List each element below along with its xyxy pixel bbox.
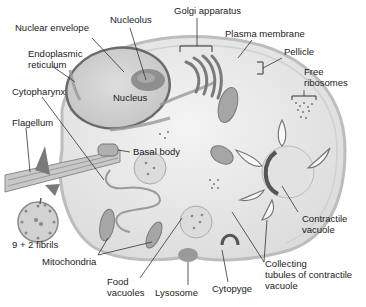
label-contractile-vacuole: Contractile vacuole <box>302 213 347 235</box>
label-plasma-membrane: Plasma membrane <box>225 28 305 39</box>
label-nucleus: Nucleus <box>113 92 147 103</box>
label-collecting-tubules: Collecting tubules of contractile vacuol… <box>265 258 352 291</box>
label-cytopyge: Cytopyge <box>212 283 252 294</box>
label-nucleolus: Nucleolus <box>110 14 152 25</box>
label-nuclear-envelope: Nuclear envelope <box>15 22 89 33</box>
label-food-vacuoles: Food vacuoles <box>107 276 145 298</box>
label-endoplasmic-reticulum: Endoplasmic reticulum <box>28 48 82 70</box>
label-basal-body: Basal body <box>133 146 180 157</box>
label-golgi-apparatus: Golgi apparatus <box>174 5 241 16</box>
paramecium-diagram: Nuclear envelope Nucleolus Golgi apparat… <box>0 0 366 307</box>
label-cytopharynx: Cytopharynx <box>12 86 65 97</box>
label-mitochondria: Mitochondria <box>42 256 96 267</box>
fibrils-cross-section <box>18 202 58 242</box>
label-flagellum: Flagellum <box>12 117 53 128</box>
contractile-vacuole-shape <box>262 146 314 198</box>
lysosome-shape <box>178 248 198 262</box>
label-lysosome: Lysosome <box>155 287 198 298</box>
label-free-ribosomes: Free ribosomes <box>304 66 348 88</box>
label-9-2-fibrils: 9 + 2 fibrils <box>12 239 58 250</box>
label-pellicle: Pellicle <box>284 46 314 57</box>
